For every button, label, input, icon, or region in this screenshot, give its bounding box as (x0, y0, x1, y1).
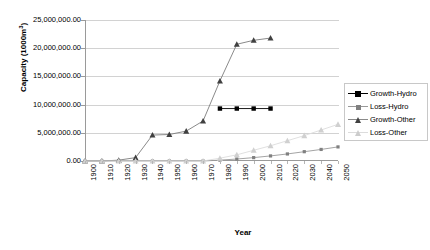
data-point-triangle (200, 118, 206, 124)
y-axis-tick-label: 25,000,000.00 (3, 16, 81, 24)
x-axis-tick-label: 2030 (308, 164, 317, 194)
y-axis-tick-label: 5,000,000.00 (3, 129, 81, 137)
legend-label-growth-other: Growth-Other (368, 115, 415, 124)
y-axis-tick-label: 20,000,000.00 (3, 44, 81, 52)
x-axis-tick-mark (304, 161, 305, 164)
chart-container: Capacity (1000m3) 0.005,000,000.0010,000… (0, 0, 430, 250)
x-axis-tick-label: 1960 (190, 164, 199, 194)
data-point-triangle (217, 78, 223, 84)
series-line (85, 147, 338, 161)
legend-label-loss-other: Loss-Other (368, 128, 407, 137)
data-point-square (303, 150, 306, 153)
legend-label-loss-hydro: Loss-Hydro (368, 102, 408, 111)
x-axis-tick-label: 1900 (89, 164, 98, 194)
data-point-square (320, 148, 323, 151)
data-point-square (268, 106, 272, 110)
data-point-square (336, 145, 339, 148)
series-growth-other (82, 35, 274, 164)
x-axis-tick-label: 2040 (325, 164, 334, 194)
x-axis-tick-mark (136, 161, 137, 164)
x-axis-tick-mark (102, 161, 103, 164)
x-axis-tick-label: 1980 (224, 164, 233, 194)
legend-item-growth-other[interactable]: Growth-Other (348, 113, 425, 126)
data-point-square (218, 106, 222, 110)
x-axis-tick-label: 2000 (258, 164, 267, 194)
x-axis-tick-mark (237, 161, 238, 164)
legend-marker-square-icon (348, 101, 368, 112)
x-axis-tick-mark (254, 161, 255, 164)
legend-marker-triangle-icon (348, 114, 368, 125)
x-axis-tick-label: 1950 (173, 164, 182, 194)
x-axis-tick-label: 2050 (342, 164, 351, 194)
y-axis-tick-label: 10,000,000.00 (3, 101, 81, 109)
x-axis-tick-label: 1940 (156, 164, 165, 194)
x-axis-tick-mark (203, 161, 204, 164)
x-axis-tick-mark (321, 161, 322, 164)
legend-item-loss-hydro[interactable]: Loss-Hydro (348, 100, 425, 113)
series-growth-hydro (218, 106, 273, 110)
x-axis-tick-mark (85, 161, 86, 164)
data-point-triangle (268, 35, 274, 41)
chart-legend: Growth-Hydro Loss-Hydro Growth-Other Los… (344, 83, 428, 141)
data-point-square (269, 154, 272, 157)
data-point-triangle (301, 133, 307, 139)
x-axis-tick-mark (119, 161, 120, 164)
data-point-square (286, 152, 289, 155)
data-point-square (252, 156, 255, 159)
x-axis-tick-label: 2010 (275, 164, 284, 194)
series-line (85, 124, 338, 161)
legend-item-growth-hydro[interactable]: Growth-Hydro (348, 87, 425, 100)
data-point-triangle (318, 127, 324, 133)
x-axis-tick-label: 1990 (241, 164, 250, 194)
x-axis-tick-label: 1920 (123, 164, 132, 194)
legend-label-growth-hydro: Growth-Hydro (368, 89, 417, 98)
data-point-square (251, 106, 255, 110)
legend-marker-triangle-icon (348, 127, 368, 138)
x-axis-tick-mark (152, 161, 153, 164)
x-axis-tick-mark (186, 161, 187, 164)
legend-marker-square-icon (348, 88, 368, 99)
data-point-square (235, 106, 239, 110)
legend-item-loss-other[interactable]: Loss-Other (348, 126, 425, 139)
y-axis-tick-label: 0.00 (3, 157, 81, 165)
x-axis-title: Year (0, 228, 430, 237)
x-axis-tick-label: 2020 (291, 164, 300, 194)
x-axis-tick-mark (271, 161, 272, 164)
series-line (85, 38, 271, 161)
data-series-layer (85, 20, 339, 162)
x-axis-tick-mark (220, 161, 221, 164)
series-loss-other (82, 121, 341, 163)
x-axis-tick-mark (169, 161, 170, 164)
x-axis-tick-label: 1930 (140, 164, 149, 194)
data-point-triangle (183, 128, 189, 134)
data-point-triangle (335, 121, 341, 127)
y-axis-tick-label: 15,000,000.00 (3, 72, 81, 80)
x-axis-tick-mark (338, 161, 339, 164)
x-axis-tick-label: 1910 (106, 164, 115, 194)
x-axis-tick-mark (287, 161, 288, 164)
x-axis-tick-label: 1970 (207, 164, 216, 194)
x-axis-title-text: Year (235, 228, 252, 237)
